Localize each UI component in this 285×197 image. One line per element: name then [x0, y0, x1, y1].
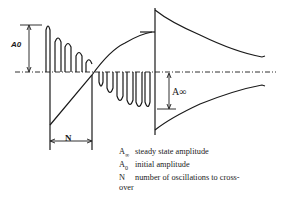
legend-row-n-cont: over [119, 183, 240, 193]
upper-envelope-curve [155, 10, 265, 57]
n-label: N [65, 133, 72, 143]
legend-row-n: Nnumber of oscillations to cross- [119, 173, 240, 183]
decaying-oscillation-positive [46, 26, 92, 72]
ainf-label: A∞ [172, 86, 186, 97]
a0-label: A0 [11, 40, 21, 49]
legend-row-a0: A0initial amplitude [119, 160, 240, 173]
legend: A∞steady state amplitude A0initial ampli… [119, 147, 240, 193]
decaying-oscillation-negative [99, 72, 150, 107]
legend-row-ainf: A∞steady state amplitude [119, 147, 240, 160]
